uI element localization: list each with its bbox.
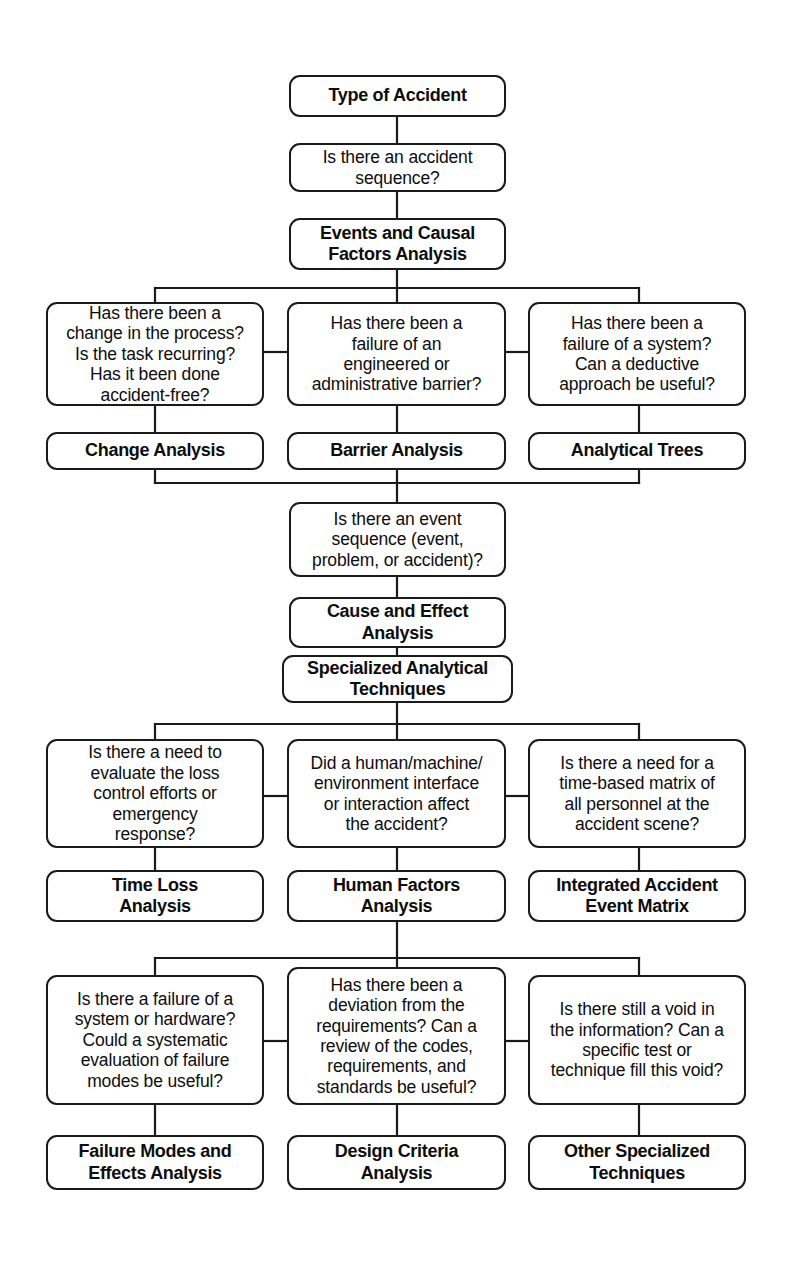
node-label: Is there an event sequence (event, probl… [297,509,498,570]
node-type-of-accident[interactable]: Type of Accident [289,75,506,117]
node-integrated-accident-event-matrix[interactable]: Integrated Accident Event Matrix [528,870,746,922]
node-time-loss-analysis[interactable]: Time Loss Analysis [46,870,264,922]
node-label: Is there still a void in the information… [536,999,738,1081]
node-question-change-in-process[interactable]: Has there been a change in the process? … [46,302,264,406]
node-label: Barrier Analysis [295,440,498,461]
node-design-criteria-analysis[interactable]: Design Criteria Analysis [287,1135,506,1190]
node-barrier-analysis[interactable]: Barrier Analysis [287,432,506,470]
node-question-loss-control-efforts[interactable]: Is there a need to evaluate the loss con… [46,739,264,848]
node-other-specialized-techniques[interactable]: Other Specialized Techniques [528,1135,746,1190]
node-question-deviation-from-requirements[interactable]: Has there been a deviation from the requ… [287,967,506,1105]
node-events-and-causal-factors-analysis[interactable]: Events and Causal Factors Analysis [289,218,506,270]
node-question-human-machine-interface[interactable]: Did a human/machine/ environment interfa… [287,739,506,848]
node-question-system-or-hardware-failure[interactable]: Is there a failure of a system or hardwa… [46,975,264,1105]
node-question-system-failure[interactable]: Has there been a failure of a system? Ca… [528,302,746,406]
node-question-barrier-failure[interactable]: Has there been a failure of an engineere… [287,302,506,406]
node-label: Specialized Analytical Techniques [290,658,505,700]
node-label: Time Loss Analysis [54,875,256,917]
node-label: Failure Modes and Effects Analysis [54,1141,256,1183]
node-cause-and-effect-analysis[interactable]: Cause and Effect Analysis [289,597,506,648]
node-label: Events and Causal Factors Analysis [297,223,498,265]
node-label: Change Analysis [54,440,256,461]
node-label: Has there been a failure of an engineere… [295,313,498,395]
node-human-factors-analysis[interactable]: Human Factors Analysis [287,870,506,922]
node-label: Type of Accident [297,85,498,106]
node-label: Analytical Trees [536,440,738,461]
node-label: Did a human/machine/ environment interfa… [295,753,498,835]
node-label: Other Specialized Techniques [536,1141,738,1183]
node-label: Is there a failure of a system or hardwa… [54,989,256,1091]
node-question-event-sequence[interactable]: Is there an event sequence (event, probl… [289,502,506,577]
node-question-accident-sequence[interactable]: Is there an accident sequence? [289,143,506,192]
flowchart-canvas: Type of Accident Is there an accident se… [0,0,795,1270]
node-label: Has there been a change in the process? … [54,303,256,405]
node-change-analysis[interactable]: Change Analysis [46,432,264,470]
node-question-time-based-matrix[interactable]: Is there a need for a time-based matrix … [528,739,746,848]
node-label: Has there been a deviation from the requ… [295,975,498,1098]
node-label: Design Criteria Analysis [295,1141,498,1183]
node-label: Is there an accident sequence? [297,147,498,188]
node-label: Cause and Effect Analysis [297,601,498,643]
node-label: Integrated Accident Event Matrix [536,875,738,917]
node-label: Is there a need to evaluate the loss con… [54,742,256,844]
node-label: Is there a need for a time-based matrix … [536,753,738,835]
node-specialized-analytical-techniques[interactable]: Specialized Analytical Techniques [282,655,513,703]
node-question-void-in-information[interactable]: Is there still a void in the information… [528,975,746,1105]
node-label: Human Factors Analysis [295,875,498,917]
node-analytical-trees[interactable]: Analytical Trees [528,432,746,470]
node-label: Has there been a failure of a system? Ca… [536,313,738,395]
node-failure-modes-and-effects-analysis[interactable]: Failure Modes and Effects Analysis [46,1135,264,1190]
